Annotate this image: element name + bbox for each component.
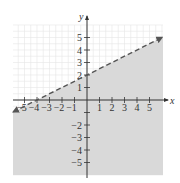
- x-tick-label: −2: [54, 102, 65, 113]
- y-tick-label: −3: [71, 132, 82, 143]
- x-tick-label: 3: [122, 102, 127, 113]
- x-tick-label: 1: [97, 102, 102, 113]
- x-axis-label: x: [169, 95, 175, 106]
- y-axis-label: y: [78, 11, 84, 22]
- x-tick-label: 2: [110, 102, 115, 113]
- y-tick-label: 1: [77, 82, 82, 93]
- y-tick-label: −2: [71, 120, 82, 131]
- inequality-graph: −5−4−3−2−11234554321−2−3−4−5 x y: [0, 0, 180, 183]
- y-tick-label: −5: [71, 157, 82, 168]
- y-tick-label: 3: [77, 57, 82, 68]
- y-tick-label: −4: [71, 145, 82, 156]
- x-tick-label: −1: [66, 102, 77, 113]
- y-tick-label: 5: [77, 32, 82, 43]
- y-tick-label: 4: [77, 45, 82, 56]
- x-tick-label: −3: [41, 102, 52, 113]
- x-tick-label: 5: [147, 102, 152, 113]
- x-tick-label: 4: [135, 102, 140, 113]
